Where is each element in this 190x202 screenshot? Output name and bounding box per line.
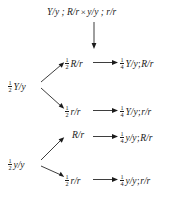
second-branch-genotype: R/r: [72, 130, 84, 140]
fraction-denominator: 2: [65, 63, 69, 70]
parent2-genotype: y/y ; r/r: [87, 7, 116, 17]
fraction-denominator: 4: [120, 180, 124, 187]
second-branch-genotype: R/r: [70, 59, 82, 69]
first-branch-genotype: y/y: [13, 160, 24, 170]
fraction-one-half: 1 2: [65, 174, 69, 188]
outcome-3: 1 4 y/y;R/r: [120, 131, 152, 145]
outcome-genotype-right: r/r: [141, 107, 151, 117]
outcome-arrow-2: [93, 108, 118, 113]
fraction-denominator: 2: [8, 164, 12, 171]
fork-arrow-yy-to-Rr: [41, 62, 64, 82]
second-branch-label-4: 1 2 r/r: [65, 174, 81, 188]
fraction-denominator: 4: [120, 137, 124, 144]
second-branch-label-2: 1 2 r/r: [65, 105, 81, 119]
second-branch-genotype: r/r: [70, 107, 80, 117]
fraction-denominator: 4: [120, 111, 124, 118]
fraction-one-half: 1 2: [65, 57, 69, 71]
outcome-genotype-left: Y/y: [125, 107, 137, 117]
second-branch-label-3: R/r: [72, 131, 84, 141]
first-branch-label-2: 1 2 y/y: [8, 158, 25, 172]
outcome-genotype-left: Y/y: [125, 59, 137, 69]
fraction-denominator: 4: [120, 63, 124, 70]
outcome-genotype-left: y/y: [125, 133, 136, 143]
parental-cross: Y/y ; R/r×y/y ; r/r: [47, 8, 116, 18]
fraction-one-quarter: 1 4: [120, 174, 124, 188]
fraction-one-quarter: 1 4: [120, 57, 124, 71]
fork-arrow-yy-to-rr: [41, 166, 64, 177]
outcome-genotype-left: y/y: [125, 176, 136, 186]
outcome-1: 1 4 Y/y;R/r: [120, 57, 153, 71]
fraction-one-quarter: 1 4: [120, 105, 124, 119]
outcome-4: 1 4 y/y;r/r: [120, 174, 150, 188]
cross-down-arrow: [92, 22, 97, 49]
fraction-denominator: 2: [65, 111, 69, 118]
fork-arrow-yy-to-Rr-lower: [41, 137, 64, 160]
outcome-genotype-right: r/r: [140, 176, 150, 186]
fork-arrow-Yy-to-rr: [41, 88, 64, 109]
genetics-branch-diagram: Y/y ; R/r×y/y ; r/r 1 2 Y/y 1 2 y/y 1 2 …: [0, 0, 190, 202]
fraction-denominator: 2: [65, 180, 69, 187]
first-branch-genotype: Y/y: [13, 82, 25, 92]
arrows-layer: [0, 0, 190, 202]
fraction-one-half: 1 2: [65, 105, 69, 119]
outcome-arrow-1: [93, 60, 118, 65]
parent1-genotype: Y/y ; R/r: [47, 7, 79, 17]
fraction-one-half: 1 2: [8, 80, 12, 94]
outcome-2: 1 4 Y/y;r/r: [120, 105, 151, 119]
outcome-genotype-right: R/r: [140, 133, 152, 143]
fraction-denominator: 2: [8, 86, 12, 93]
second-branch-genotype: r/r: [70, 176, 80, 186]
outcome-genotype-right: R/r: [141, 59, 153, 69]
fraction-one-half: 1 2: [8, 158, 12, 172]
first-branch-label-1: 1 2 Y/y: [8, 80, 26, 94]
fraction-one-quarter: 1 4: [120, 131, 124, 145]
outcome-arrow-3: [93, 134, 118, 139]
outcome-arrow-4: [93, 177, 118, 182]
second-branch-label-1: 1 2 R/r: [65, 57, 83, 71]
